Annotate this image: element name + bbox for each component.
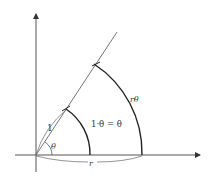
- radius-r-bracket: [36, 156, 88, 162]
- arc-length-diagram: 1 θ 1·θ = θ rθ r: [0, 0, 212, 180]
- radius-r-bracket-right: [97, 156, 142, 162]
- label-outer-arc: rθ: [130, 95, 139, 104]
- label-outer-radius: r: [89, 159, 94, 168]
- label-unit-arc: 1·θ = θ: [91, 119, 122, 129]
- label-unit-radius: 1: [47, 123, 53, 133]
- unit-arc: [66, 109, 90, 155]
- outer-arc: [94, 64, 142, 155]
- angle-ray: [36, 32, 117, 155]
- label-angle-theta: θ: [51, 142, 56, 151]
